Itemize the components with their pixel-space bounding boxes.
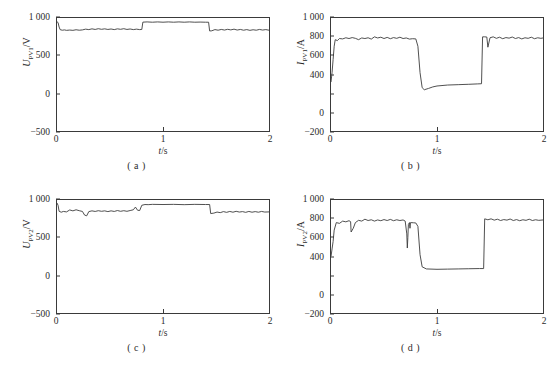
ytick-mark bbox=[330, 74, 334, 75]
xtick-mark bbox=[163, 127, 164, 132]
ytick-label: 400 bbox=[310, 252, 324, 262]
ytick-mark bbox=[330, 93, 334, 94]
ytick-mark bbox=[56, 314, 60, 315]
ytick-label: −200 bbox=[304, 309, 324, 319]
xtick-label: 1 bbox=[161, 134, 166, 144]
xtick-label: 0 bbox=[54, 316, 59, 326]
ytick-mark bbox=[330, 256, 334, 257]
panel-a-trace bbox=[57, 22, 269, 31]
ytick-label: 600 bbox=[310, 232, 324, 242]
panel-d-trace bbox=[331, 219, 543, 269]
ytick-mark bbox=[56, 199, 60, 200]
panel-a-yaxis-title: UPV1/V bbox=[21, 22, 35, 82]
panel-b-plot-area bbox=[330, 17, 544, 132]
ytick-mark bbox=[330, 237, 334, 238]
panel-a-plot-area bbox=[56, 17, 270, 132]
panel-a-trace-svg bbox=[57, 18, 269, 131]
panel-c-caption: ( c ) bbox=[0, 342, 273, 353]
ytick-mark bbox=[56, 275, 60, 276]
panel-c: 1 0005000−500 012 UPV2/V t/s ( c ) bbox=[0, 182, 273, 367]
panel-c-xaxis-title: t/s bbox=[56, 328, 270, 338]
panel-a-xaxis-title: t/s bbox=[56, 146, 270, 156]
ytick-mark bbox=[330, 275, 334, 276]
ytick-label: 0 bbox=[45, 271, 50, 281]
panel-b-yaxis-title: IPV1/A bbox=[295, 22, 309, 82]
ytick-mark bbox=[330, 36, 334, 37]
ytick-label: −500 bbox=[30, 127, 50, 137]
panel-b-caption: ( b ) bbox=[274, 160, 547, 171]
ytick-mark bbox=[330, 294, 334, 295]
figure-root: 1 0005000−500 012 UPV1/V t/s ( a ) 1 000… bbox=[0, 0, 547, 370]
xtick-label: 2 bbox=[542, 134, 547, 144]
panel-d-yaxis-title: IPV2/A bbox=[295, 204, 309, 264]
xtick-label: 1 bbox=[161, 316, 166, 326]
xtick-label: 2 bbox=[268, 316, 273, 326]
xtick-label: 1 bbox=[435, 134, 440, 144]
panel-d: 1 0008006004000−200 012 IPV2/A t/s ( d ) bbox=[274, 182, 547, 367]
ytick-mark bbox=[330, 132, 334, 133]
ytick-mark bbox=[56, 132, 60, 133]
ytick-mark bbox=[330, 112, 334, 113]
ytick-label: −200 bbox=[304, 127, 324, 137]
ytick-mark bbox=[56, 17, 60, 18]
ytick-label: 0 bbox=[319, 290, 324, 300]
panel-b-xaxis-title: t/s bbox=[330, 146, 544, 156]
ytick-label: 0 bbox=[319, 108, 324, 118]
ytick-mark bbox=[330, 17, 334, 18]
ytick-label: 800 bbox=[310, 31, 324, 41]
xtick-label: 0 bbox=[328, 316, 333, 326]
ytick-label: −500 bbox=[30, 309, 50, 319]
ytick-label: 500 bbox=[36, 232, 50, 242]
panel-c-trace-svg bbox=[57, 200, 269, 313]
xtick-mark bbox=[163, 309, 164, 314]
ytick-mark bbox=[330, 218, 334, 219]
ytick-label: 800 bbox=[310, 213, 324, 223]
ytick-mark bbox=[56, 93, 60, 94]
ytick-label: 600 bbox=[310, 50, 324, 60]
xtick-label: 1 bbox=[435, 316, 440, 326]
ytick-mark bbox=[330, 199, 334, 200]
panel-c-yaxis-title: UPV2/V bbox=[21, 204, 35, 264]
xtick-label: 2 bbox=[268, 134, 273, 144]
panel-b-trace bbox=[331, 37, 543, 90]
panel-b: 1 0008006004000−200 012 IPV1/A t/s ( b ) bbox=[274, 0, 547, 185]
ytick-label: 1 000 bbox=[29, 12, 50, 22]
ytick-mark bbox=[56, 55, 60, 56]
panel-a-caption: ( a ) bbox=[0, 160, 273, 171]
panel-b-trace-svg bbox=[331, 18, 543, 131]
panel-d-trace-svg bbox=[331, 200, 543, 313]
xtick-label: 0 bbox=[54, 134, 59, 144]
panel-c-trace bbox=[57, 203, 269, 216]
ytick-label: 500 bbox=[36, 50, 50, 60]
ytick-mark bbox=[56, 237, 60, 238]
ytick-label: 1 000 bbox=[303, 12, 324, 22]
ytick-label: 1 000 bbox=[29, 194, 50, 204]
xtick-mark bbox=[437, 127, 438, 132]
xtick-label: 2 bbox=[542, 316, 547, 326]
panel-d-caption: ( d ) bbox=[274, 342, 547, 353]
panel-d-plot-area bbox=[330, 199, 544, 314]
ytick-label: 1 000 bbox=[303, 194, 324, 204]
panel-c-plot-area bbox=[56, 199, 270, 314]
ytick-mark bbox=[330, 55, 334, 56]
xtick-mark bbox=[437, 309, 438, 314]
panel-a: 1 0005000−500 012 UPV1/V t/s ( a ) bbox=[0, 0, 273, 185]
ytick-mark bbox=[330, 314, 334, 315]
xtick-label: 0 bbox=[328, 134, 333, 144]
ytick-label: 400 bbox=[310, 70, 324, 80]
ytick-label: 0 bbox=[45, 89, 50, 99]
panel-d-xaxis-title: t/s bbox=[330, 328, 544, 338]
